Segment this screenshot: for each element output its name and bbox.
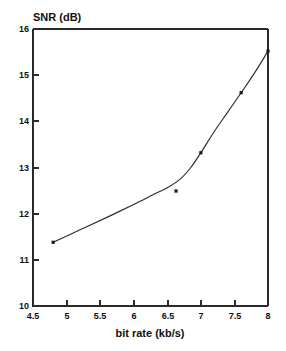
data-point xyxy=(174,189,177,192)
data-point xyxy=(266,50,269,53)
chart-canvas: SNR (dB) 16 15 14 13 12 11 10 xyxy=(0,0,286,351)
x-tick-label-8: 8 xyxy=(265,311,270,321)
x-tick-label-6: 6 xyxy=(131,311,136,321)
x-tick-label-5: 5 xyxy=(64,311,69,321)
x-tick-label-7: 7 xyxy=(198,311,203,321)
y-tick-label-12: 12 xyxy=(19,209,29,219)
x-tick-label-4-5: 4.5 xyxy=(27,311,40,321)
y-tick-label-11: 11 xyxy=(19,255,29,265)
y-tick-label-10: 10 xyxy=(19,301,29,311)
y-tick-label-14: 14 xyxy=(19,116,29,126)
figure-background xyxy=(0,0,286,351)
y-tick-label-15: 15 xyxy=(19,70,29,80)
y-axis-title: SNR (dB) xyxy=(33,11,82,23)
x-axis-title: bit rate (kb/s) xyxy=(115,327,184,339)
x-tick-label-6-5: 6.5 xyxy=(162,311,175,321)
data-point xyxy=(240,91,243,94)
y-tick-label-13: 13 xyxy=(19,163,29,173)
chart-figure: SNR (dB) 16 15 14 13 12 11 10 xyxy=(0,0,286,351)
x-tick-label-5-5: 5.5 xyxy=(94,311,107,321)
data-point xyxy=(199,151,202,154)
data-point xyxy=(52,241,55,244)
y-tick-label-16: 16 xyxy=(19,24,29,34)
x-tick-label-7-5: 7.5 xyxy=(229,311,242,321)
